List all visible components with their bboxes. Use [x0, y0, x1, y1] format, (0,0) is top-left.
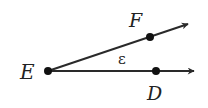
- point-e: [44, 67, 52, 75]
- angle-label-epsilon: ε: [118, 50, 126, 68]
- angle-diagram: E F D ε: [0, 0, 208, 108]
- label-d: D: [146, 82, 162, 104]
- point-d: [152, 67, 160, 75]
- point-f: [146, 33, 154, 41]
- label-e: E: [19, 60, 35, 84]
- label-f: F: [128, 9, 143, 31]
